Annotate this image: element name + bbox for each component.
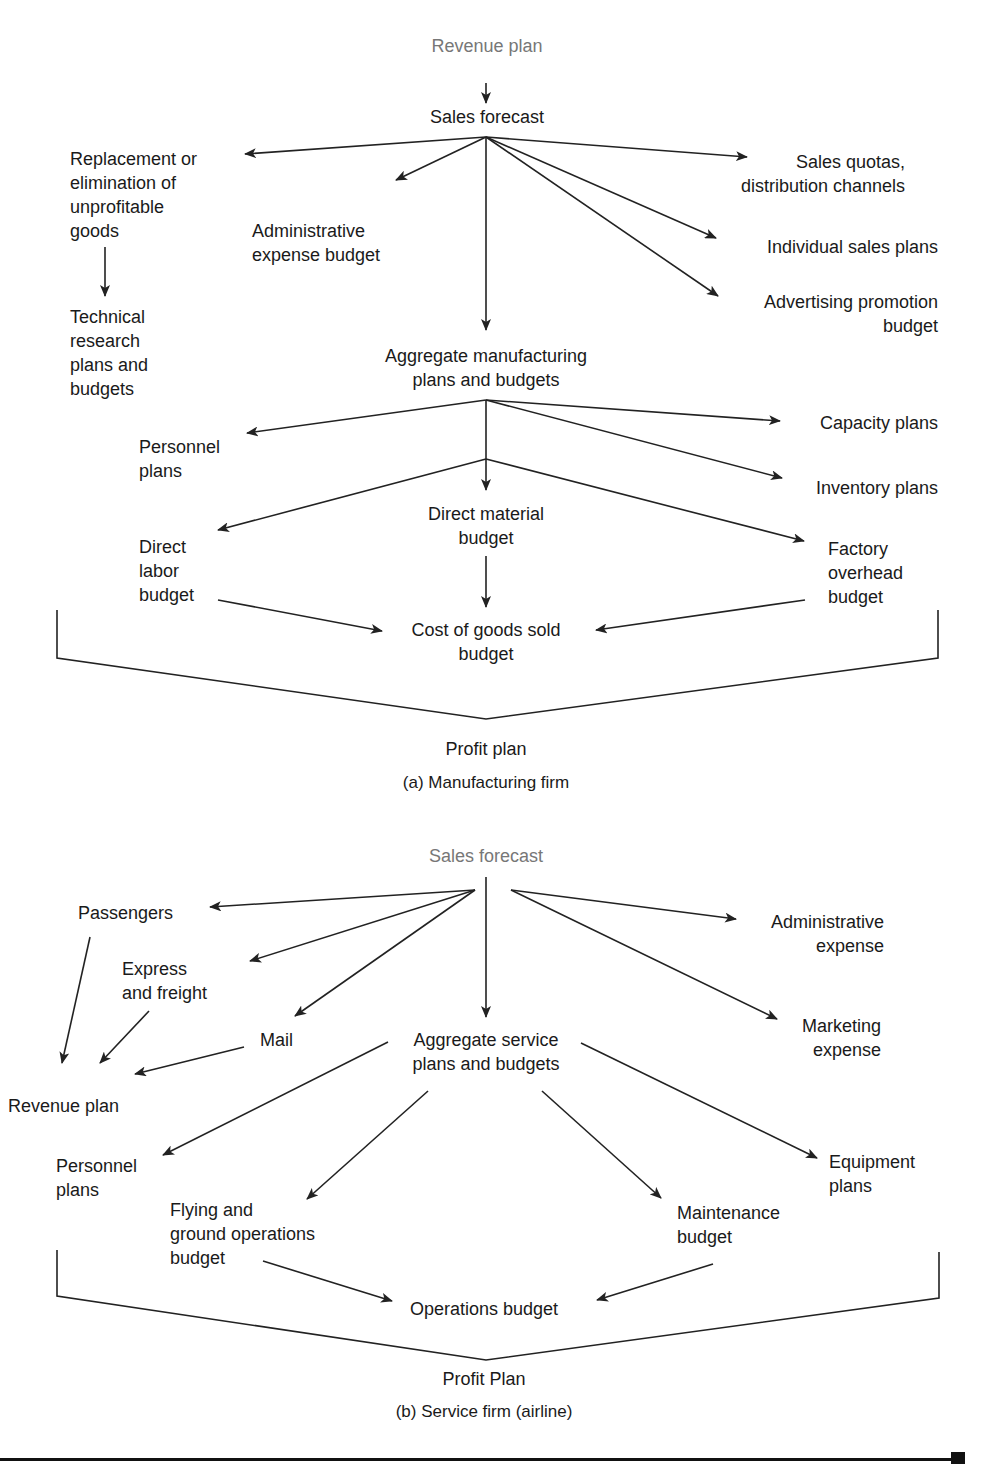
arrow-connector	[210, 890, 475, 907]
node-admin-expense-budget: Administrative expense budget	[252, 219, 380, 267]
arrow-connector	[486, 137, 718, 296]
arrow-connector	[295, 890, 475, 1016]
arrow-connector	[135, 1047, 244, 1074]
node-personnel-plans: Personnel plans	[56, 1154, 137, 1202]
arrow-connector	[542, 1091, 661, 1198]
node-sales-forecast: Sales forecast	[429, 844, 543, 868]
arrow-connector	[100, 1011, 149, 1063]
arrow-connector	[396, 137, 486, 180]
node-factory-overhead: Factory overhead budget	[828, 537, 903, 609]
caption-manufacturing-firm: (a) Manufacturing firm	[403, 771, 569, 795]
node-capacity-plans: Capacity plans	[820, 411, 938, 435]
caption-service-firm: (b) Service firm (airline)	[396, 1400, 573, 1424]
arrow-connector	[245, 137, 486, 154]
node-mail: Mail	[260, 1028, 293, 1052]
arrow-connector	[486, 400, 780, 421]
arrow-connector	[596, 600, 805, 630]
node-replacement: Replacement or elimination of unprofitab…	[70, 147, 197, 243]
node-operations-budget: Operations budget	[410, 1297, 558, 1321]
node-revenue-plan: Revenue plan	[8, 1094, 119, 1118]
node-profit-plan: Profit Plan	[442, 1367, 525, 1391]
node-technical-research: Technical research plans and budgets	[70, 305, 148, 401]
node-flying-ground: Flying and ground operations budget	[170, 1198, 315, 1270]
node-revenue-plan: Revenue plan	[431, 34, 542, 58]
node-maintenance-budget: Maintenance budget	[677, 1201, 780, 1249]
page-bottom-rule	[0, 1458, 952, 1461]
node-personnel-plans: Personnel plans	[139, 435, 220, 483]
node-express-freight: Express and freight	[122, 957, 207, 1005]
node-inventory-plans: Inventory plans	[816, 476, 938, 500]
arrow-connector	[307, 1091, 428, 1199]
node-cogs: Cost of goods sold budget	[411, 618, 560, 666]
arrow-connector	[247, 400, 486, 433]
arrow-connector	[62, 937, 90, 1063]
end-of-section-marker	[951, 1452, 965, 1464]
arrow-connector	[597, 1264, 713, 1300]
node-profit-plan: Profit plan	[445, 737, 526, 761]
arrow-connector	[486, 400, 782, 478]
arrow-connector	[581, 1043, 817, 1158]
node-direct-material: Direct material budget	[428, 502, 544, 550]
node-passengers: Passengers	[78, 901, 173, 925]
arrow-connector	[511, 890, 777, 1019]
node-marketing-expense: Marketing expense	[802, 1014, 881, 1062]
arrow-connector	[250, 890, 475, 961]
node-aggregate-mfg: Aggregate manufacturing plans and budget…	[385, 344, 587, 392]
node-admin-expense: Administrative expense	[771, 910, 884, 958]
node-individual-sales: Individual sales plans	[767, 235, 938, 259]
node-sales-forecast: Sales forecast	[430, 105, 544, 129]
node-equipment-plans: Equipment plans	[829, 1150, 915, 1198]
node-sales-quotas: Sales quotas, distribution channels	[741, 150, 905, 198]
budget-flow-diagram: Revenue planSales forecastReplacement or…	[0, 0, 982, 1470]
arrow-connector	[218, 600, 382, 631]
node-advertising: Advertising promotion budget	[764, 290, 938, 338]
arrow-connector	[511, 890, 736, 919]
node-aggregate-service: Aggregate service plans and budgets	[412, 1028, 559, 1076]
node-direct-labor: Direct labor budget	[139, 535, 194, 607]
